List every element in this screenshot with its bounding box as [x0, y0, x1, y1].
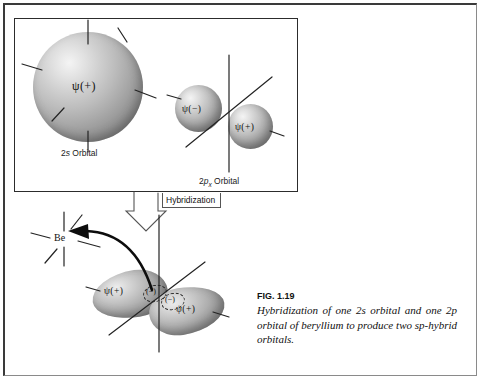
node-right-sign: (−)	[165, 295, 175, 304]
sp-hybrid-right-label: ψ(+)	[176, 304, 195, 314]
sp-hybrid-left-label: ψ(+)	[104, 286, 123, 296]
figure-number: FIG. 1.19	[257, 291, 457, 301]
transformation-arrowhead	[68, 224, 89, 239]
be-bond-upper-right	[71, 215, 82, 229]
beryllium-atom-symbol: Be	[54, 232, 65, 243]
be-bond-lower-left	[45, 249, 57, 263]
node-left-sign: (−)	[146, 287, 156, 296]
2p-negative-label: ψ(−)	[182, 104, 201, 114]
be-bond-right	[78, 241, 100, 247]
2s-orbital-caption: 2s Orbital	[61, 148, 97, 158]
hybridization-label: Hybridization	[166, 195, 215, 205]
2s-wavefunction-label: ψ(+)	[72, 79, 96, 94]
figure-caption-text: Hybridization of one 2s orbital and one …	[257, 303, 457, 347]
2p-orbital-caption: 2px Orbital	[199, 176, 239, 188]
2p-positive-label: ψ(+)	[235, 122, 254, 132]
be-bond-left	[31, 233, 50, 238]
figure-caption: FIG. 1.19 Hybridization of one 2s orbita…	[257, 291, 457, 347]
hybridization-down-arrow	[126, 192, 166, 231]
figure-page: ψ(+) 2s Orbital ψ(−) ψ(+) 2px Orbital Hy…	[0, 0, 483, 381]
